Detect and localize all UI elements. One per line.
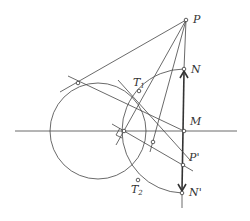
line-a-m — [68, 76, 184, 131]
label-t2: T2 — [131, 183, 143, 197]
label-n-prime: N' — [188, 186, 202, 199]
point-n-prime — [180, 191, 184, 195]
geometry-diagram: P N M P' N' T1 T2 — [0, 0, 250, 221]
point-t2 — [136, 178, 140, 182]
point-n — [182, 67, 186, 71]
line-pq — [150, 20, 186, 152]
label-p-prime: P' — [188, 151, 199, 164]
point-q — [151, 140, 155, 144]
line-pc — [116, 20, 186, 145]
point-c — [122, 129, 126, 133]
label-n: N — [190, 63, 201, 76]
label-p: P — [192, 13, 201, 26]
point-m — [182, 129, 186, 133]
point-a — [76, 81, 80, 85]
point-p — [184, 18, 188, 22]
label-t1: T1 — [133, 76, 145, 90]
point-p-prime — [181, 163, 185, 167]
label-m: M — [189, 115, 202, 128]
